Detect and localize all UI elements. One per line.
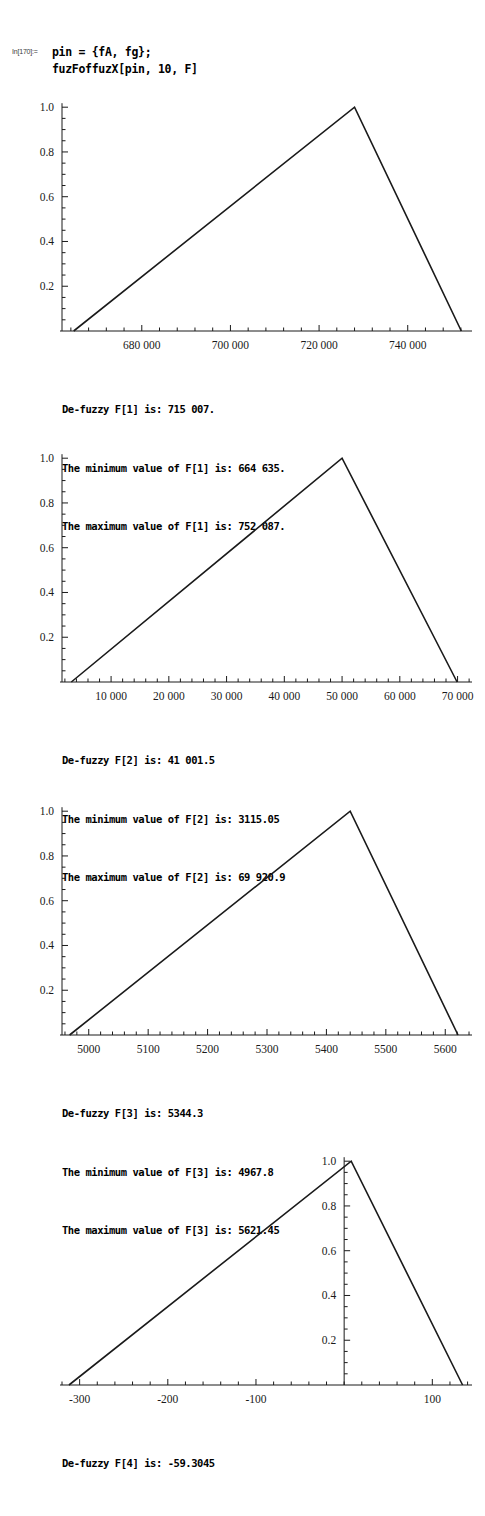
in-prompt-label: In[170]:= (12, 48, 38, 55)
x-tick-label: -300 (69, 1393, 90, 1405)
output-block-f4: -300-200-1001000.20.40.60.81.0 De-fuzzy … (0, 1140, 485, 1516)
x-tick-label: 30 000 (211, 690, 243, 702)
x-tick-label: 700 000 (212, 339, 250, 351)
defuzzy-line-f4: De-fuzzy F[4] is: -59.3045 (62, 1454, 485, 1474)
x-tick-label: 20 000 (153, 690, 185, 702)
membership-curve (74, 107, 462, 331)
minimum-line-f4: The minimum value of F[4] is: -312.077 (62, 1513, 485, 1516)
plot-f2: 10 00020 00030 00040 00050 00060 00070 0… (0, 437, 485, 712)
x-tick-label: 740 000 (389, 339, 427, 351)
y-tick-label: 1.0 (40, 805, 55, 817)
y-tick-label: 0.6 (40, 191, 55, 203)
y-tick-label: 0.4 (40, 586, 55, 598)
plot-f2-svg: 10 00020 00030 00040 00050 00060 00070 0… (0, 437, 485, 712)
x-tick-label: 50 000 (326, 690, 358, 702)
y-tick-label: 0.8 (40, 146, 55, 158)
plot-f4: -300-200-1001000.20.40.60.81.0 (0, 1140, 485, 1415)
y-tick-label: 0.6 (322, 1245, 337, 1257)
x-tick-label: 40 000 (269, 690, 301, 702)
x-tick-label: 5100 (137, 1043, 160, 1055)
y-tick-label: 0.6 (40, 895, 55, 907)
x-tick-label: 5500 (374, 1043, 397, 1055)
plot-f3-svg: 50005100520053005400550056000.20.40.60.8… (0, 790, 485, 1065)
x-tick-label: 680 000 (123, 339, 161, 351)
x-tick-label: 10 000 (95, 690, 127, 702)
defuzzy-line-f1: De-fuzzy F[1] is: 715 007. (62, 400, 485, 420)
y-tick-label: 0.4 (40, 939, 55, 951)
y-tick-label: 0.2 (322, 1334, 337, 1346)
x-tick-label: 5400 (315, 1043, 338, 1055)
x-tick-label: 70 000 (442, 690, 474, 702)
x-tick-label: 60 000 (384, 690, 416, 702)
result-text-f4: De-fuzzy F[4] is: -59.3045 The minimum v… (62, 1415, 485, 1516)
defuzzy-line-f3: De-fuzzy F[3] is: 5344.3 (62, 1104, 485, 1124)
y-tick-label: 0.2 (40, 984, 55, 996)
x-tick-label: -200 (157, 1393, 178, 1405)
plot-f1-svg: 680 000700 000720 000740 0000.20.40.60.8… (0, 86, 485, 361)
defuzzy-line-f2: De-fuzzy F[2] is: 41 001.5 (62, 751, 485, 771)
x-tick-label: 720 000 (300, 339, 338, 351)
code-line-2: fuzFoffuzX[pin, 10, F] (52, 61, 485, 78)
x-tick-label: 5300 (256, 1043, 279, 1055)
y-tick-label: 0.8 (40, 497, 55, 509)
code-line-1: pin = {fA, fg}; (52, 44, 485, 61)
y-tick-label: 0.2 (40, 631, 55, 643)
x-tick-label: 100 (424, 1393, 442, 1405)
y-tick-label: 0.6 (40, 542, 55, 554)
code-block[interactable]: pin = {fA, fg}; fuzFoffuzX[pin, 10, F] (52, 44, 485, 78)
membership-curve (69, 1161, 463, 1385)
y-tick-label: 0.4 (40, 235, 55, 247)
input-cell[interactable]: In[170]:= pin = {fA, fg}; fuzFoffuzX[pin… (0, 44, 485, 78)
y-tick-label: 0.8 (322, 1200, 337, 1212)
plot-f3: 50005100520053005400550056000.20.40.60.8… (0, 790, 485, 1065)
x-tick-label: 5200 (196, 1043, 219, 1055)
y-tick-label: 1.0 (322, 1155, 337, 1167)
y-tick-label: 1.0 (40, 101, 55, 113)
plot-f4-svg: -300-200-1001000.20.40.60.81.0 (0, 1140, 485, 1415)
y-tick-label: 1.0 (40, 452, 55, 464)
x-tick-label: 5000 (77, 1043, 100, 1055)
y-tick-label: 0.4 (322, 1289, 337, 1301)
membership-curve (70, 811, 458, 1035)
y-tick-label: 0.2 (40, 280, 55, 292)
x-tick-label: 5600 (434, 1043, 457, 1055)
plot-f1: 680 000700 000720 000740 0000.20.40.60.8… (0, 86, 485, 361)
x-tick-label: -100 (245, 1393, 266, 1405)
membership-curve (71, 458, 457, 682)
y-tick-label: 0.8 (40, 850, 55, 862)
